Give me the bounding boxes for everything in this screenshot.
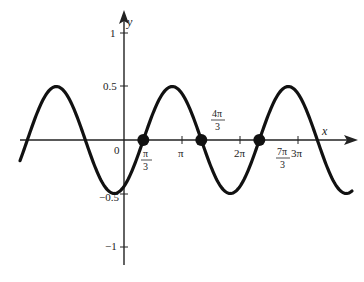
y-axis-label: y	[126, 15, 133, 29]
svg-text:4π: 4π	[212, 108, 222, 119]
label-pi-over-3: π 3	[141, 148, 152, 172]
svg-text:π: π	[143, 148, 148, 159]
x-tick-label: 3π	[291, 147, 303, 159]
zero-point	[253, 134, 265, 146]
sinusoid-plot: 1 0.5 −0.5 −1 y x 0 π 2π 3π π 3 4π 3 7π …	[0, 0, 364, 282]
label-4pi-over-3: 4π 3	[211, 108, 225, 132]
svg-text:3: 3	[280, 159, 285, 170]
zero-point	[137, 134, 149, 146]
y-tick-label: −1	[105, 240, 117, 252]
x-tick-label: π	[178, 147, 184, 159]
svg-text:7π: 7π	[277, 146, 287, 157]
label-7pi-over-3: 7π 3	[276, 146, 290, 170]
x-tick-label: 2π	[234, 147, 246, 159]
svg-text:3: 3	[143, 161, 148, 172]
svg-text:3: 3	[215, 121, 220, 132]
origin-label: 0	[114, 144, 120, 156]
x-axis-label: x	[321, 124, 328, 138]
zero-point	[195, 134, 207, 146]
y-tick-label: 1	[110, 27, 116, 39]
y-tick-label: 0.5	[103, 80, 117, 92]
